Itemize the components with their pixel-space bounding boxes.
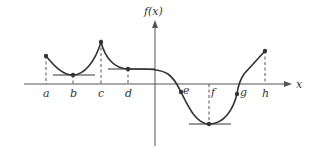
function-graph-figure: x f(x) a b c d e f g h bbox=[0, 0, 311, 155]
point-b bbox=[71, 73, 75, 77]
x-axis-label: x bbox=[296, 78, 303, 91]
tick-label-h: h bbox=[262, 87, 269, 100]
point-a bbox=[44, 54, 48, 58]
tick-label-b: b bbox=[70, 87, 77, 100]
y-axis-arrow-icon bbox=[152, 20, 158, 28]
graph-canvas: x f(x) a b c d e f g h bbox=[0, 0, 311, 155]
x-axis-arrow-icon bbox=[284, 81, 292, 87]
point-d bbox=[126, 67, 130, 71]
y-axis-label: f(x) bbox=[143, 5, 163, 18]
point-g bbox=[235, 92, 239, 96]
point-f bbox=[207, 122, 211, 126]
tick-label-d: d bbox=[125, 87, 132, 100]
tick-label-e: e bbox=[183, 84, 190, 97]
tick-label-f: f bbox=[210, 86, 217, 99]
point-c bbox=[99, 40, 103, 44]
point-h bbox=[263, 49, 267, 53]
tick-label-c: c bbox=[98, 87, 104, 100]
tick-label-g: g bbox=[240, 86, 247, 99]
tick-label-a: a bbox=[43, 87, 50, 100]
